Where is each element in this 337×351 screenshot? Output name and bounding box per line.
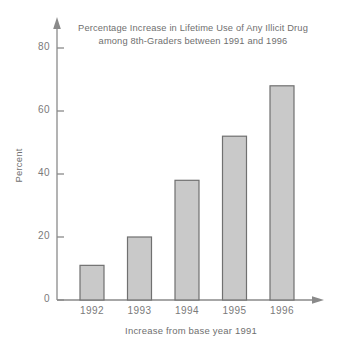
x-tick-label-1995: 1995 <box>212 305 258 316</box>
chart-title-line-1: Percentage Increase in Lifetime Use of A… <box>62 22 324 35</box>
bar-1992 <box>80 265 104 300</box>
y-tick-label-40: 40 <box>24 167 50 178</box>
bar-1996 <box>270 86 294 300</box>
x-tick-label-1993: 1993 <box>117 305 163 316</box>
x-tick-label-1992: 1992 <box>69 305 115 316</box>
bar-1994 <box>175 180 199 300</box>
bar-chart-figure: Percentage Increase in Lifetime Use of A… <box>0 0 337 351</box>
plot-area <box>0 0 337 351</box>
bar-1995 <box>223 136 247 300</box>
x-axis-arrowhead <box>312 296 324 304</box>
chart-title-line-2: among 8th-Graders between 1991 and 1996 <box>62 35 324 48</box>
x-axis-title: Increase from base year 1991 <box>57 325 325 336</box>
bar-1993 <box>128 237 152 300</box>
y-tick-label-60: 60 <box>24 104 50 115</box>
y-axis-arrowhead <box>53 17 61 29</box>
y-axis-title: Percent <box>13 136 24 196</box>
y-tick-label-80: 80 <box>24 41 50 52</box>
y-tick-label-20: 20 <box>24 230 50 241</box>
y-tick-label-0: 0 <box>24 293 50 304</box>
x-tick-label-1994: 1994 <box>164 305 210 316</box>
x-tick-label-1996: 1996 <box>259 305 305 316</box>
chart-title: Percentage Increase in Lifetime Use of A… <box>62 22 324 47</box>
